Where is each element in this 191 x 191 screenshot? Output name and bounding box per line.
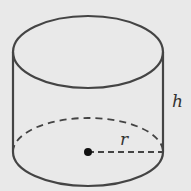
radius-label: r — [120, 131, 128, 148]
height-label: h — [172, 93, 183, 110]
bottom-front-edge — [13, 152, 163, 186]
cylinder-drawing — [0, 0, 191, 191]
cylinder-diagram: h r — [0, 0, 191, 191]
center-dot — [84, 148, 92, 156]
bottom-back-edge-hidden — [13, 118, 163, 152]
top-face — [13, 16, 163, 88]
